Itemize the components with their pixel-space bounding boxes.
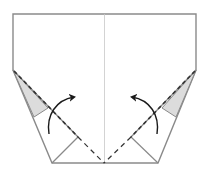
origami-diagram (0, 0, 206, 176)
